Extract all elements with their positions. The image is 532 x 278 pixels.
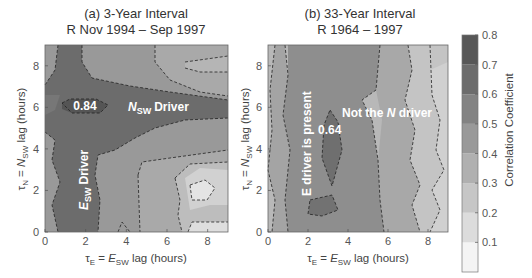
sym: N	[387, 106, 396, 120]
eq: =	[239, 167, 251, 180]
panel-b-xtick-label: 0	[265, 235, 271, 247]
panel-a-xtick-label: 0	[42, 235, 48, 247]
panel-b-xlabel: τE = ESW lag (hours)	[307, 252, 409, 267]
colorbar-band	[462, 213, 478, 243]
eq: =	[95, 252, 108, 264]
eq: =	[317, 252, 330, 264]
panel-a-contours	[45, 45, 228, 232]
sub: SW	[245, 145, 254, 158]
panel-a-ytick-label: 4	[33, 143, 39, 155]
colorbar-band	[462, 154, 478, 184]
colorbar-band	[462, 242, 478, 272]
post: driver	[395, 106, 432, 120]
figure: (a) 3-Year Interval R Nov 1994 – Sep 199…	[0, 0, 532, 278]
colorbar-band	[462, 65, 478, 95]
panel-a-ytick-label: 8	[33, 60, 39, 72]
colorbar-band	[462, 94, 478, 124]
colorbar-band	[462, 35, 478, 65]
colorbar-tick-label: 0.4	[482, 148, 497, 160]
panel-b-xtick-label: 6	[385, 235, 391, 247]
colorbar-band	[462, 124, 478, 154]
panel-b-ytick-label: 6	[256, 101, 262, 113]
panel-b-xtick-label: 8	[425, 235, 431, 247]
panel-b-title: (b) 33-Year Interval	[305, 6, 416, 21]
panel-b-e-driver-label: E driver is present	[300, 91, 314, 196]
colorbar-tick-label: 0.3	[482, 177, 497, 189]
colorbar-tick-label: 0.1	[482, 236, 497, 248]
sub: SW	[137, 106, 152, 116]
panel-a-ytick-label: 0	[33, 226, 39, 238]
panel-a-ytick-label: 2	[33, 184, 39, 196]
panel-a-xtick-label: 4	[123, 235, 129, 247]
colorbar-band	[462, 183, 478, 213]
panel-b-ylabel: τN = NSW lag (hours)	[239, 87, 254, 190]
panel-b-not-n-driver-label: Not the N driver	[342, 106, 432, 120]
panel-a-ytick-label: 6	[33, 101, 39, 113]
panel-b: (b) 33-Year Interval R 1964 – 1997 E dri…	[239, 6, 448, 267]
panel-a-max-label: 0.84	[73, 99, 97, 113]
colorbar-tick-label: 0.2	[482, 207, 497, 219]
panel-b-contours	[268, 45, 448, 232]
panel-b-ytick-label: 0	[256, 226, 262, 238]
panel-a-subtitle: R Nov 1994 – Sep 1997	[67, 22, 206, 37]
panel-b-xtick-label: 4	[345, 235, 351, 247]
colorbar-tick-label: 0.8	[482, 29, 497, 41]
eq: =	[15, 167, 27, 180]
colorbar-tick-label: 0.6	[482, 88, 497, 100]
txt: Driver	[154, 100, 189, 114]
rest: lag (hours)	[129, 252, 187, 264]
panel-a-xtick-label: 6	[164, 235, 170, 247]
rest: lag (hours)	[15, 87, 27, 145]
panel-b-xtick-label: 2	[305, 235, 311, 247]
colorbar-tick-label: 0.7	[482, 59, 497, 71]
sub: SW	[21, 145, 30, 158]
sub: SW	[83, 187, 93, 202]
panel-b-ytick-label: 8	[256, 60, 262, 72]
panel-b-subtitle: R 1964 – 1997	[317, 22, 402, 37]
colorbar: 0.10.20.30.40.50.60.70.8	[462, 29, 497, 272]
sym: N	[128, 100, 137, 114]
panel-b-ytick-label: 2	[256, 184, 262, 196]
sub: SW	[116, 258, 129, 267]
txt: Driver	[77, 149, 91, 184]
panel-a-ylabel: τN = NSW lag (hours)	[15, 87, 30, 190]
panel-a-xtick-label: 2	[83, 235, 89, 247]
pre: Not the	[342, 106, 387, 120]
panel-b-max-label: 0.64	[318, 123, 342, 137]
panel-a-xlabel: τE = ESW lag (hours)	[85, 252, 187, 267]
panel-a-xtick-label: 8	[205, 235, 211, 247]
colorbar-tick-label: 0.5	[482, 118, 497, 130]
panel-a: (a) 3-Year Interval R Nov 1994 – Sep 199…	[15, 6, 228, 267]
panel-a-title: (a) 3-Year Interval	[84, 6, 188, 21]
rest: lag (hours)	[351, 252, 409, 264]
panel-b-ytick-label: 4	[256, 143, 262, 155]
sub: SW	[338, 258, 351, 267]
colorbar-label: Correlation Coefficient	[503, 72, 515, 186]
rest: lag (hours)	[239, 87, 251, 145]
